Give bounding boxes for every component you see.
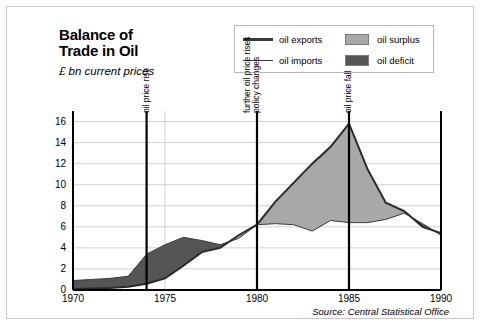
source-note: Source: Central Statistical Office [312,306,449,317]
legend-swatch-oil-deficit-icon [345,55,369,66]
y-axis-tick-label: 10 [44,179,66,190]
legend-label-oil-imports: oil imports [279,55,322,66]
x-axis-tick-label: 1975 [145,293,185,304]
x-axis-tick-label: 1985 [329,293,369,304]
y-axis-tick-label: 8 [44,200,66,211]
chart-legend: oil exports oil surplus oil imports oil … [234,25,434,73]
x-axis-tick-label: 1970 [53,293,93,304]
chart-svg [73,111,441,290]
x-axis-tick-label: 1990 [421,293,461,304]
page-title: Balance of Trade in Oil [59,27,138,59]
legend-label-oil-surplus: oil surplus [377,34,420,45]
x-axis-tick-label: 1980 [237,293,277,304]
plot-area [73,111,441,290]
y-axis-tick-label: 2 [44,263,66,274]
y-axis-tick-label: 6 [44,221,66,232]
title-line-2: Trade in Oil [59,43,138,59]
legend-swatch-oil-surplus-icon [345,34,369,45]
chart-card: Balance of Trade in Oil £ bn current pri… [6,6,474,319]
chart-subtitle: £ bn current prices [59,65,154,77]
legend-label-oil-exports: oil exports [279,34,322,45]
legend-row: oil exports oil surplus [235,29,433,49]
legend-row: oil imports oil deficit [235,50,433,70]
y-axis-tick-label: 4 [44,242,66,253]
band-oil-deficit [73,217,434,289]
legend-label-oil-deficit: oil deficit [377,55,414,66]
y-axis-tick-label: 12 [44,158,66,169]
y-axis-tick-label: 16 [44,116,66,127]
y-axis-tick-label: 14 [44,137,66,148]
title-line-1: Balance of [59,27,138,43]
